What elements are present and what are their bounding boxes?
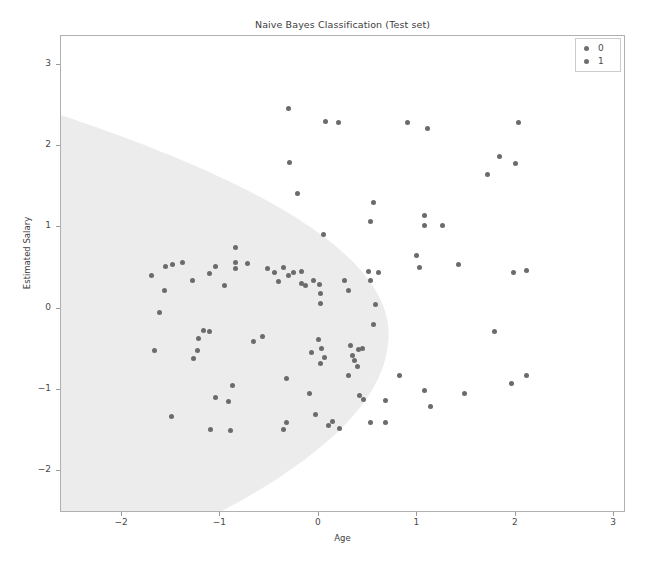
y-tick-mark: [56, 470, 60, 471]
scatter-point: [511, 270, 516, 275]
scatter-point: [260, 334, 265, 339]
scatter-point: [180, 260, 185, 265]
scatter-point: [265, 266, 270, 271]
scatter-point: [318, 291, 323, 296]
scatter-point: [462, 391, 467, 396]
scatter-point: [207, 329, 212, 334]
scatter-point: [422, 388, 427, 393]
scatter-point: [284, 420, 289, 425]
scatter-point: [485, 172, 490, 177]
scatter-point: [357, 393, 362, 398]
legend-label-1: 1: [598, 57, 604, 66]
scatter-point: [251, 339, 256, 344]
scatter-point: [276, 279, 281, 284]
scatter-point: [428, 404, 433, 409]
scatter-point: [272, 270, 277, 275]
scatter-point: [337, 426, 342, 431]
chart-title: Naive Bayes Classification (Test set): [60, 19, 625, 30]
scatter-point: [371, 200, 376, 205]
scatter-point: [348, 343, 353, 348]
scatter-point: [405, 120, 410, 125]
scatter-point: [313, 412, 318, 417]
scatter-point: [311, 278, 316, 283]
scatter-point: [414, 253, 419, 258]
scatter-point: [417, 265, 422, 270]
scatter-point: [352, 358, 357, 363]
scatter-point: [317, 282, 322, 287]
scatter-point: [371, 322, 376, 327]
scatter-point: [169, 414, 174, 419]
scatter-point: [170, 262, 175, 267]
scatter-point: [422, 213, 427, 218]
scatter-point: [307, 391, 312, 396]
x-tick-mark: [121, 512, 122, 516]
scatter-point: [316, 337, 321, 342]
x-tick-mark: [613, 512, 614, 516]
scatter-point: [303, 283, 308, 288]
scatter-point: [456, 262, 461, 267]
scatter-point: [368, 278, 373, 283]
scatter-point: [524, 373, 529, 378]
scatter-point: [213, 395, 218, 400]
scatter-point: [287, 160, 292, 165]
y-tick-label: 3: [20, 58, 51, 68]
scatter-point: [195, 348, 200, 353]
x-tick-label: 2: [495, 517, 535, 527]
scatter-point: [346, 288, 351, 293]
scatter-point: [330, 419, 335, 424]
scatter-point: [425, 126, 430, 131]
scatter-point: [291, 270, 296, 275]
legend: 0 1: [575, 38, 621, 72]
scatter-point: [152, 348, 157, 353]
scatter-point: [226, 399, 231, 404]
scatter-point: [309, 350, 314, 355]
plot-area: [60, 35, 625, 512]
scatter-point: [336, 120, 341, 125]
scatter-point: [516, 120, 521, 125]
scatter-point: [346, 373, 351, 378]
legend-marker-0: [584, 46, 589, 51]
y-tick-mark: [56, 308, 60, 309]
scatter-point: [228, 428, 233, 433]
scatter-point: [286, 273, 291, 278]
scatter-point: [201, 328, 206, 333]
x-tick-label: 3: [593, 517, 633, 527]
scatter-point: [361, 397, 366, 402]
legend-label-0: 0: [598, 44, 604, 53]
y-axis-label: Estimated Salary: [22, 113, 32, 393]
x-tick-label: 1: [396, 517, 436, 527]
scatter-point: [360, 346, 365, 351]
scatter-point: [422, 223, 427, 228]
scatter-point: [524, 268, 529, 273]
scatter-point: [281, 427, 286, 432]
scatter-point: [323, 119, 328, 124]
scatter-point: [513, 161, 518, 166]
scatter-point: [440, 223, 445, 228]
x-tick-label: −1: [199, 517, 239, 527]
scatter-point: [299, 269, 304, 274]
scatter-point: [196, 336, 201, 341]
scatter-point: [318, 361, 323, 366]
scatter-point: [373, 302, 378, 307]
scatter-point: [208, 427, 213, 432]
legend-marker-1: [584, 59, 589, 64]
y-tick-label: −2: [20, 464, 51, 474]
scatter-point: [230, 383, 235, 388]
x-tick-mark: [416, 512, 417, 516]
legend-item: 0: [579, 42, 616, 55]
scatter-point: [191, 356, 196, 361]
scatter-point: [492, 329, 497, 334]
scatter-points-layer: [61, 36, 624, 511]
x-tick-mark: [515, 512, 516, 516]
y-tick-mark: [56, 64, 60, 65]
scatter-point: [319, 346, 324, 351]
scatter-point: [245, 261, 250, 266]
scatter-point: [286, 106, 291, 111]
scatter-point: [383, 398, 388, 403]
scatter-point: [322, 355, 327, 360]
scatter-point: [368, 219, 373, 224]
scatter-point: [207, 271, 212, 276]
scatter-point: [233, 266, 238, 271]
scatter-point: [163, 264, 168, 269]
scatter-point: [383, 420, 388, 425]
